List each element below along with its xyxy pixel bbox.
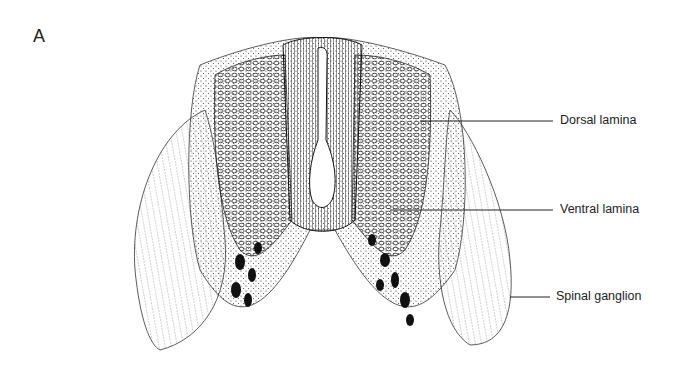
label-dorsal-lamina: Dorsal lamina [560, 113, 636, 127]
spinal-cord-cross-section-drawing [0, 0, 697, 377]
label-ventral-lamina: Ventral lamina [560, 202, 639, 216]
label-spinal-ganglion: Spinal ganglion [556, 289, 642, 303]
